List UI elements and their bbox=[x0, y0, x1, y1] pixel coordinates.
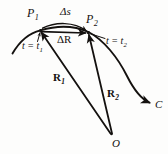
diagram-canvas bbox=[0, 0, 168, 154]
label-point-p1: P1 bbox=[27, 7, 38, 19]
label-point-p2: P2 bbox=[86, 13, 97, 25]
label-arc-length-delta-s: Δs bbox=[60, 6, 71, 17]
label-time-t2: t = t2 bbox=[106, 36, 127, 46]
point-marker-p1 bbox=[39, 29, 42, 32]
label-origin-o: O bbox=[112, 138, 120, 149]
point-marker-origin bbox=[110, 133, 112, 135]
vector-diagram-figure: P1 P2 Δs ΔR t = t1 t = t2 R1 R2 C O bbox=[0, 0, 168, 154]
label-time-t1: t = t1 bbox=[22, 41, 43, 51]
label-curve-c: C bbox=[155, 99, 162, 110]
label-vector-r2: R2 bbox=[107, 88, 119, 99]
label-displacement-delta-r: ΔR bbox=[57, 34, 71, 45]
point-marker-p2 bbox=[87, 31, 90, 34]
label-vector-r1: R1 bbox=[53, 72, 65, 83]
